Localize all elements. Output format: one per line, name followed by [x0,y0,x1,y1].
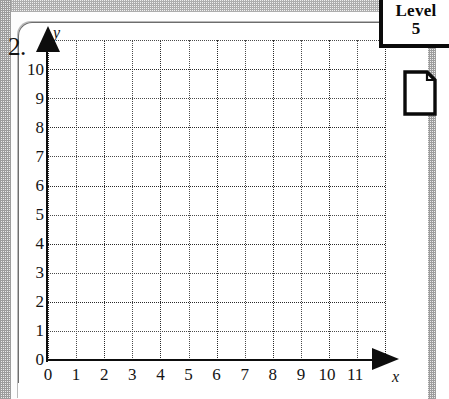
x-tick-label: 9 [289,365,313,385]
x-tick-label: 5 [177,365,201,385]
level-word-label: Level [383,1,449,21]
x-tick-label: 4 [148,365,172,385]
level-number-label: 5 [383,19,449,39]
x-tick-label: 11 [343,365,367,385]
x-tick-label: 1 [64,365,88,385]
x-tick-label: 8 [261,365,285,385]
x-tick-label: 0 [36,365,60,385]
x-tick-label: 7 [233,365,257,385]
x-tick-label: 6 [205,365,229,385]
page-document-icon [403,70,437,116]
x-tick-label: 3 [120,365,144,385]
level-badge: Level 5 [379,0,449,48]
x-tick-label: 10 [315,365,339,385]
x-tick-label: 2 [92,365,116,385]
